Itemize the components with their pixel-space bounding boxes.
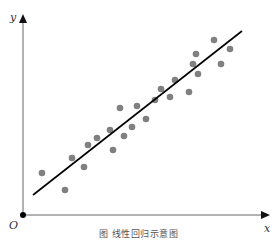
- data-point: [158, 86, 165, 93]
- data-point: [193, 51, 200, 58]
- data-point: [69, 155, 76, 162]
- data-point: [186, 89, 193, 96]
- x-axis-arrow-icon: [261, 211, 270, 219]
- data-point: [218, 61, 225, 68]
- data-point: [134, 103, 141, 110]
- data-point: [117, 105, 124, 112]
- regression-line: [33, 31, 242, 195]
- data-point: [167, 94, 174, 101]
- y-axis-label: y: [9, 11, 17, 24]
- data-point: [110, 147, 117, 154]
- data-point: [211, 37, 218, 44]
- scatter-chart: y x O: [0, 0, 277, 244]
- data-point: [121, 133, 128, 140]
- figure-caption: 图 线性回归示意图: [0, 227, 277, 240]
- data-point: [143, 116, 150, 123]
- data-point: [39, 170, 46, 177]
- data-point: [227, 46, 234, 53]
- data-point: [195, 71, 202, 78]
- origin-dot: [20, 212, 26, 218]
- data-point: [62, 187, 69, 194]
- data-point: [129, 124, 136, 131]
- data-point: [85, 142, 92, 149]
- y-axis-arrow-icon: [19, 14, 27, 23]
- data-point: [94, 135, 101, 142]
- data-point: [190, 61, 197, 68]
- data-point: [81, 164, 88, 171]
